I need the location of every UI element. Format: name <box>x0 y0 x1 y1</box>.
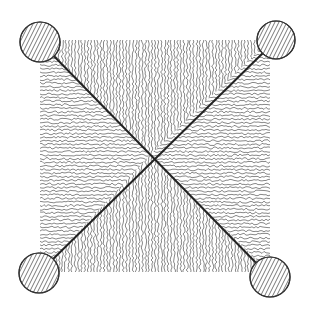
corner-post-bottom-left <box>0 253 89 293</box>
rush-seat-illustration <box>0 0 310 310</box>
corner-post-bottom-right <box>220 257 310 297</box>
corner-post-top-left <box>0 22 90 62</box>
rush-seat-drawing <box>0 0 310 310</box>
